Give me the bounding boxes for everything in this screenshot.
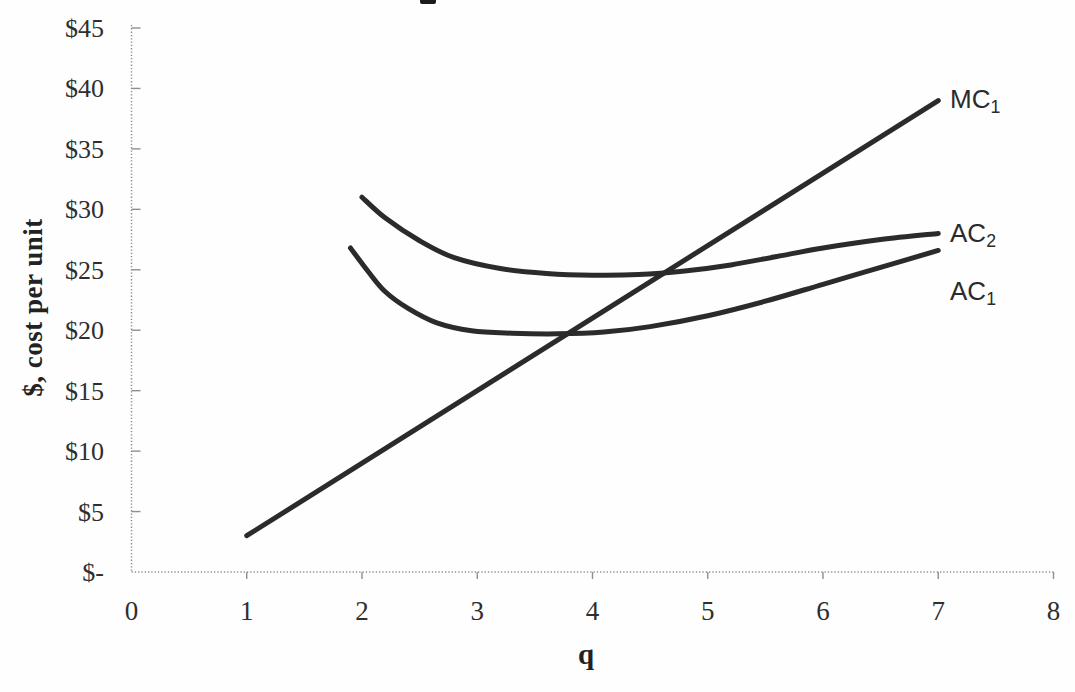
curve-label-mc1-sub: 1 [990, 97, 1000, 117]
y-tick-label: $30 [65, 195, 104, 224]
y-tick-label: $25 [65, 256, 104, 285]
x-axis-title: q [578, 638, 594, 671]
y-tick-label: $5 [78, 498, 104, 527]
x-tick-label: 5 [701, 596, 715, 626]
curve-label-ac1: AC1 [950, 277, 996, 309]
y-tick-label: $10 [65, 437, 104, 466]
x-tick-label: 6 [816, 596, 830, 626]
chart-plot-area: $-$5$10$15$20$25$30$35$40$45012345678 [0, 0, 1075, 692]
y-tick-label: $45 [65, 14, 104, 43]
cost-curves-chart: $-$5$10$15$20$25$30$35$40$45012345678 $,… [0, 0, 1075, 692]
y-tick-label: $35 [65, 135, 104, 164]
curve-label-ac2-sub: 2 [986, 231, 996, 251]
curve-label-ac2: AC2 [950, 219, 996, 251]
curve-label-ac2-text: AC [950, 218, 986, 248]
x-tick-label: 8 [1047, 596, 1061, 626]
x-tick-label: 1 [240, 596, 254, 626]
curve-label-mc1-text: MC [950, 84, 990, 114]
x-tick-label: 0 [125, 596, 139, 626]
curve-label-ac1-text: AC [950, 276, 986, 306]
y-tick-label: $15 [65, 377, 104, 406]
y-tick-label: $20 [65, 316, 104, 345]
x-tick-label: 7 [932, 596, 946, 626]
x-tick-label: 2 [355, 596, 369, 626]
x-tick-label: 3 [471, 596, 485, 626]
curve-ac1 [350, 248, 938, 334]
y-tick-label: $- [82, 558, 104, 587]
y-axis-title: $, cost per unit [18, 158, 49, 458]
curve-label-ac1-sub: 1 [986, 289, 996, 309]
x-tick-label: 4 [586, 596, 600, 626]
y-tick-label: $40 [65, 74, 104, 103]
curve-ac2 [362, 197, 938, 275]
curve-label-mc1: MC1 [950, 85, 1000, 117]
curve-mc1 [247, 101, 939, 536]
